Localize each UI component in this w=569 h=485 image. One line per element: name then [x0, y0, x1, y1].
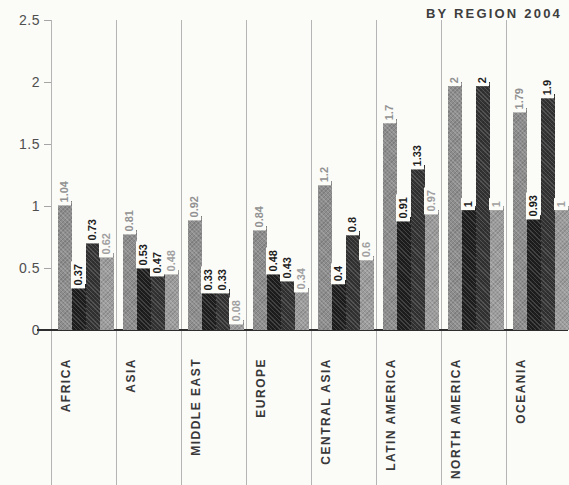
bar: [100, 253, 114, 330]
y-axis-tick: [44, 144, 51, 145]
bar: [346, 231, 360, 330]
bar: [295, 288, 309, 330]
bar: [360, 256, 374, 330]
category-gridline: [441, 20, 442, 485]
bar: [425, 210, 439, 330]
bar: [318, 181, 332, 330]
category-gridline: [116, 20, 117, 485]
bar: [448, 82, 462, 330]
bar: [383, 119, 397, 330]
bar-value-label: 0.37: [71, 261, 85, 288]
bar-value-label: 0.34: [294, 265, 308, 292]
bar-value-label: 2: [447, 74, 461, 86]
bar: [58, 201, 72, 330]
bar: [476, 82, 490, 330]
y-axis-tick: [44, 82, 51, 83]
bar-value-label: 0.4: [331, 263, 345, 284]
y-axis-tick-label: 1: [0, 198, 40, 214]
y-axis-tick: [44, 206, 51, 207]
bar-value-label: 0.08: [229, 297, 243, 324]
category-gridline: [246, 20, 247, 485]
category-gridline: [376, 20, 377, 485]
bar-value-label: 1.79: [512, 85, 526, 112]
category-gridline: [51, 20, 52, 485]
x-axis-label: CENTRAL ASIA: [319, 358, 333, 465]
bar-value-label: 0.62: [99, 230, 113, 257]
bar-value-label: 0.33: [215, 266, 229, 293]
bar-value-label: 0.93: [526, 192, 540, 219]
bar: [151, 272, 165, 330]
x-axis-label: ASIA: [124, 358, 138, 393]
bar-value-label: 1.33: [410, 142, 424, 169]
bar-value-label: 0.33: [201, 266, 215, 293]
bar-value-label: 1.7: [382, 102, 396, 123]
bar-value-label: 2: [475, 74, 489, 86]
bar-value-label: 0.53: [136, 241, 150, 268]
bar: [267, 270, 281, 330]
bar-value-label: 0.6: [359, 239, 373, 260]
bar: [281, 277, 295, 330]
bar-value-label: 0.47: [150, 249, 164, 276]
y-axis-tick-label: 1.5: [0, 136, 40, 152]
bar-value-label: 1.04: [57, 178, 71, 205]
y-axis-tick: [44, 20, 51, 21]
y-axis-tick-label: 2.5: [0, 12, 40, 28]
bar-value-label: 0.73: [85, 216, 99, 243]
category-gridline: [506, 20, 507, 485]
bar-value-label: 0.48: [266, 247, 280, 274]
bar: [513, 108, 527, 330]
bar: [490, 206, 504, 330]
bar: [202, 289, 216, 330]
y-axis-tick-label: 2: [0, 74, 40, 90]
bar-value-label: 0.84: [252, 203, 266, 230]
bar: [541, 94, 555, 330]
bar: [555, 206, 569, 330]
x-axis-label: LATIN AMERICA: [384, 358, 398, 471]
bar: [332, 280, 346, 330]
bar-value-label: 0.91: [396, 194, 410, 221]
x-axis-label: MIDDLE EAST: [189, 358, 203, 456]
category-gridline: [181, 20, 182, 485]
bar: [397, 217, 411, 330]
bar: [137, 264, 151, 330]
y-axis-tick-label: 0.5: [0, 260, 40, 276]
bar: [165, 270, 179, 330]
x-axis-label: OCEANIA: [514, 358, 528, 424]
y-axis-tick: [44, 268, 51, 269]
bar-value-label: 0.97: [424, 187, 438, 214]
bar: [527, 215, 541, 330]
chart-title: BY REGION 2004: [426, 6, 562, 21]
bar: [411, 165, 425, 330]
bar-value-label: 1: [461, 198, 475, 210]
bar: [216, 289, 230, 330]
x-axis-label: EUROPE: [254, 358, 268, 418]
bar: [72, 284, 86, 330]
bar: [462, 206, 476, 330]
bar: [188, 216, 202, 330]
bar: [253, 226, 267, 330]
bar-value-label: 1: [554, 198, 568, 210]
bar-value-label: 1.2: [317, 164, 331, 185]
y-axis-tick-label: 0: [0, 322, 40, 338]
bar-value-label: 1: [489, 198, 503, 210]
bar-value-label: 0.8: [345, 214, 359, 235]
bar: [123, 230, 137, 330]
x-axis-label: AFRICA: [59, 358, 73, 412]
bar-value-label: 0.92: [187, 193, 201, 220]
bar-value-label: 1.9: [540, 77, 554, 98]
bar: [86, 239, 100, 330]
x-axis-label: NORTH AMERICA: [449, 358, 463, 479]
bar-value-label: 0.81: [122, 207, 136, 234]
category-gridline: [311, 20, 312, 485]
bar-value-label: 0.48: [164, 247, 178, 274]
bar-value-label: 0.43: [280, 254, 294, 281]
